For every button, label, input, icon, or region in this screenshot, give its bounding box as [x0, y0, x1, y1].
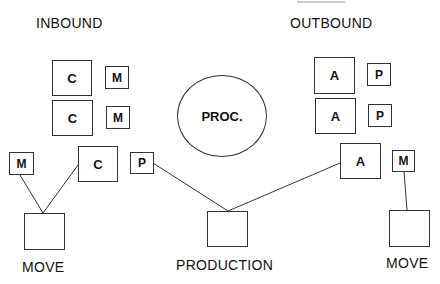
production-p-box: P [130, 152, 154, 174]
outbound-label: OUTBOUND [290, 15, 373, 31]
inbound-c-box-2: C [52, 100, 93, 136]
move-left-label: MOVE [22, 259, 64, 275]
move-right-box [389, 210, 430, 247]
move-right-label: MOVE [386, 255, 428, 271]
inbound-m-box-1: M [105, 66, 129, 89]
production-box [207, 211, 248, 247]
outbound-p-box-1: P [367, 63, 391, 86]
move-left-c-box: C [78, 146, 118, 182]
inbound-c-box-1: C [52, 60, 92, 96]
move-left-m-box: M [9, 152, 34, 175]
move-right-m-box: M [392, 150, 415, 172]
inbound-label: INBOUND [36, 15, 103, 31]
outbound-p-box-2: P [368, 104, 392, 127]
production-a-box: A [340, 143, 381, 179]
outbound-a-box-2: A [315, 98, 356, 134]
inbound-m-box-2: M [106, 106, 130, 129]
move-left-box [24, 213, 65, 250]
outbound-a-box-1: A [314, 57, 355, 94]
process-label: PROC. [201, 109, 242, 124]
production-label: PRODUCTION [176, 257, 273, 273]
process-circle: PROC. [177, 75, 267, 157]
